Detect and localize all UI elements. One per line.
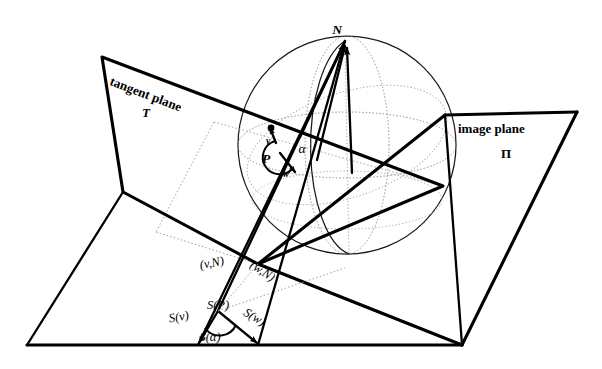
line-vN-label: (v,N) bbox=[198, 254, 225, 272]
point-P-marker bbox=[268, 125, 275, 132]
tangent-vectors-group bbox=[263, 125, 295, 175]
line-wN-label: (w,N) bbox=[247, 258, 277, 285]
arrow-into-N-c bbox=[347, 48, 352, 173]
image-plane-symbol-label: Π bbox=[501, 146, 511, 161]
image-plane-label: image plane bbox=[458, 121, 525, 136]
image-plane-edge-right bbox=[462, 112, 577, 345]
base-plane-right-edge bbox=[258, 264, 462, 345]
base-plane-left-edge bbox=[27, 192, 123, 345]
angle-alpha-label: α bbox=[298, 141, 306, 156]
figure-canvas: tangent plane T image plane Π N P v w α … bbox=[0, 0, 602, 369]
base-plane-group bbox=[27, 192, 462, 345]
vector-v-label: v bbox=[266, 136, 271, 146]
labels-group: tangent plane T image plane Π N P v w α … bbox=[108, 22, 525, 344]
proj-v-label: S(v) bbox=[168, 308, 190, 325]
image-plane-fold-line bbox=[445, 115, 462, 345]
north-pole-label: N bbox=[331, 22, 343, 37]
point-P-label: P bbox=[262, 151, 271, 166]
tangent-plane-inner-edge-top bbox=[214, 122, 443, 186]
image-plane-edge-top bbox=[445, 112, 577, 115]
proj-angle-label: S(α) bbox=[199, 330, 220, 344]
vector-w-label: w bbox=[283, 169, 290, 179]
proj-point-label: S(P) bbox=[207, 298, 229, 312]
stereographic-projection-diagram: tangent plane T image plane Π N P v w α … bbox=[0, 0, 602, 369]
tangent-plane-symbol-label: T bbox=[142, 105, 151, 120]
